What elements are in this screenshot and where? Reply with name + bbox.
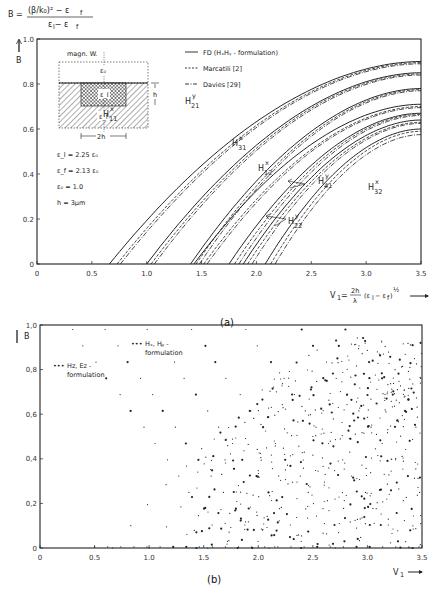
data-point: [264, 517, 265, 518]
x-tick-label: 2.5: [306, 270, 317, 278]
mode-label: Hy41: [318, 172, 332, 190]
data-point: [334, 470, 335, 471]
panel-a-ylabel: B: [16, 39, 22, 65]
data-point: [302, 420, 304, 422]
data-point: [292, 419, 294, 421]
data-point: [397, 540, 399, 542]
panel-b-axes: 00.51.01.52.02.53.03.500,20,40,60,81,0: [26, 322, 428, 563]
data-point: [328, 400, 329, 401]
data-point: [271, 500, 272, 501]
data-point: [380, 524, 382, 526]
data-point: [376, 508, 377, 509]
data-point: [264, 546, 265, 547]
data-point: [284, 454, 285, 455]
data-point: [244, 529, 245, 530]
waveguide-inset: magn. W. ε₀ ε_l ε_f h 2h: [59, 50, 159, 141]
curve-h31x-marcatili: [196, 90, 421, 264]
data-point: [271, 534, 273, 536]
data-point: [396, 512, 398, 514]
data-point: [405, 449, 406, 450]
data-point: [379, 489, 381, 491]
data-point: [246, 493, 247, 494]
data-point: [240, 492, 241, 493]
data-point: [387, 484, 388, 485]
data-point: [342, 459, 343, 460]
data-point: [350, 521, 351, 522]
data-point: [284, 459, 286, 461]
data-point: [402, 415, 403, 416]
data-point: [404, 396, 405, 397]
data-point: [392, 394, 394, 396]
data-point: [355, 434, 356, 435]
data-point: [248, 507, 250, 509]
data-point: [210, 469, 211, 470]
data-point: [278, 475, 279, 476]
data-point: [349, 438, 350, 439]
data-point: [382, 501, 383, 502]
data-point: [326, 380, 328, 382]
data-point: [352, 413, 354, 415]
panel-b-points: [72, 328, 422, 549]
x-tick-label: 3.0: [362, 554, 373, 562]
data-point: [292, 482, 293, 483]
data-point: [343, 508, 344, 509]
data-point: [272, 468, 273, 469]
data-point: [201, 448, 202, 449]
data-point: [364, 340, 366, 342]
data-point: [265, 430, 266, 431]
data-point: [253, 529, 255, 531]
data-point: [301, 535, 302, 536]
data-point: [390, 383, 391, 384]
data-point: [355, 520, 356, 521]
mode-label: Hx32: [368, 178, 382, 196]
data-point: [184, 378, 185, 379]
data-point: [420, 544, 421, 545]
svg-text:2h: 2h: [351, 287, 359, 295]
data-point: [336, 378, 337, 379]
data-point: [331, 411, 333, 413]
data-point: [343, 540, 345, 542]
data-point: [238, 485, 239, 486]
data-point: [407, 398, 409, 400]
data-point: [420, 377, 421, 378]
svg-text:h = 3µm: h = 3µm: [57, 199, 85, 207]
data-point: [311, 495, 312, 496]
data-point: [291, 393, 293, 395]
data-point: [408, 546, 409, 547]
data-point: [275, 443, 276, 444]
y-tick-label: 0,8: [26, 366, 37, 374]
data-point: [397, 389, 398, 390]
data-point: [317, 350, 318, 351]
data-point: [298, 446, 299, 447]
data-point: [310, 388, 312, 390]
data-point: [415, 468, 416, 469]
data-point: [228, 540, 229, 541]
data-point: [386, 460, 388, 462]
data-point: [368, 409, 369, 410]
data-point: [417, 463, 418, 464]
data-point: [371, 493, 372, 494]
data-point: [326, 533, 327, 534]
data-point: [408, 371, 409, 372]
data-point: [322, 429, 323, 430]
data-point: [271, 407, 272, 408]
data-point: [232, 443, 233, 444]
svg-text:(ε: (ε: [364, 292, 371, 300]
data-point: [323, 533, 324, 534]
panel-b-annotation-hzez: ••• Hz, Ez - formulation: [53, 362, 105, 379]
x-tick-label: 2.5: [307, 554, 318, 562]
data-point: [262, 529, 263, 530]
data-point: [346, 395, 347, 396]
data-point: [185, 442, 187, 444]
data-point: [322, 377, 324, 379]
data-point: [245, 329, 246, 330]
svg-text:ε_l: ε_l: [100, 91, 109, 99]
data-point: [287, 432, 288, 433]
data-point: [388, 524, 389, 525]
data-point: [401, 366, 402, 367]
data-point: [295, 380, 296, 381]
data-point: [363, 418, 365, 420]
data-point: [195, 547, 197, 549]
data-point: [402, 456, 403, 457]
data-point: [382, 443, 383, 444]
